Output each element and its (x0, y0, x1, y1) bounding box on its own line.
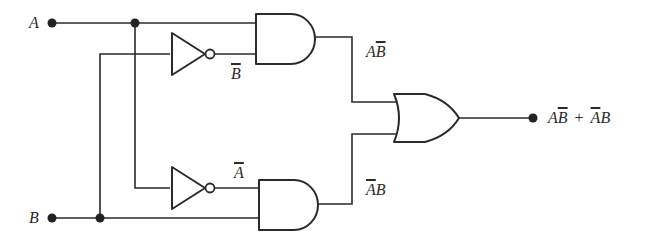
label-and-top-output: AB (366, 44, 386, 60)
terminal-dot-a (48, 19, 57, 28)
out-term1-b-bar: B (558, 109, 568, 126)
term-a-bar: A (366, 181, 376, 198)
label-not-b-symbol: B (231, 65, 241, 82)
term-b: B (376, 181, 386, 198)
out-term2-b: B (600, 109, 610, 126)
input-label-b: B (29, 210, 39, 226)
label-and-bottom-output: AB (366, 182, 386, 198)
junction-dot-b (96, 214, 105, 223)
or-gate (394, 94, 459, 142)
label-output-expression: AB+AB (548, 110, 610, 126)
and-gate-top (256, 14, 315, 64)
label-not-b: B (231, 66, 241, 82)
terminal-dot-output (529, 114, 538, 123)
not-gate-top (172, 33, 215, 75)
label-not-a-symbol: A (234, 164, 244, 181)
terminal-dot-b (48, 214, 57, 223)
term-b-bar: B (376, 43, 386, 60)
out-operator: + (575, 109, 584, 126)
input-label-a: A (29, 15, 39, 31)
term-a: A (366, 43, 376, 60)
out-term1-a: A (548, 109, 558, 126)
out-term2-a-bar: A (591, 109, 601, 126)
not-gate-bottom (172, 167, 215, 209)
label-not-a: A (234, 165, 244, 181)
wire-a-to-not-bottom (135, 23, 170, 188)
and-gate-bottom (259, 180, 318, 230)
junction-dot-a (131, 19, 140, 28)
